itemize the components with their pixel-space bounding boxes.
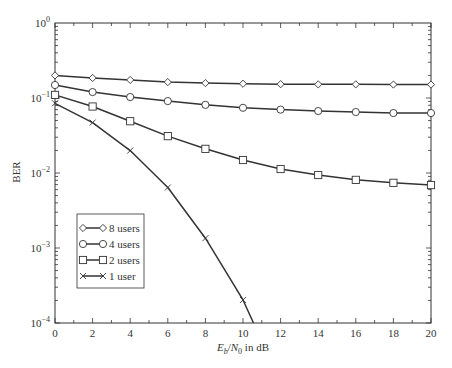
x-tick-label: 18: [388, 327, 400, 339]
legend-label: 4 users: [109, 238, 140, 250]
x-tick-label: 16: [350, 327, 362, 339]
x-tick-label: 8: [203, 327, 209, 339]
y-tick-label: 10−1: [30, 90, 50, 104]
x-tick-label: 12: [275, 327, 286, 339]
x-tick-label: 2: [90, 327, 96, 339]
legend-label: 1 user: [109, 270, 136, 282]
x-tick-label: 10: [238, 327, 250, 339]
y-tick-label: 100: [35, 15, 50, 29]
y-tick-label: 10−4: [30, 315, 50, 329]
ber-chart: 02468101214161820 10010−110−210−310−4 8 …: [0, 0, 452, 368]
x-tick-label: 20: [426, 327, 438, 339]
x-tick-label: 4: [127, 327, 133, 339]
xlabel-suffix: in dB: [242, 341, 269, 353]
y-axis-label: BER: [10, 161, 22, 183]
series-8-users: [51, 72, 434, 88]
legend: 8 users4 users2 users1 user: [77, 214, 144, 288]
legend-label: 8 users: [109, 222, 140, 234]
legend-label: 2 users: [109, 254, 140, 266]
x-axis-label: Eb/N0 in dB: [216, 341, 269, 356]
series-1-user: [52, 100, 254, 323]
x-tick-label: 0: [52, 327, 58, 339]
y-tick-label: 10−3: [30, 240, 50, 254]
x-tick-label: 14: [313, 327, 325, 339]
x-tick-label: 6: [165, 327, 171, 339]
y-tick-label: 10−2: [30, 165, 50, 179]
